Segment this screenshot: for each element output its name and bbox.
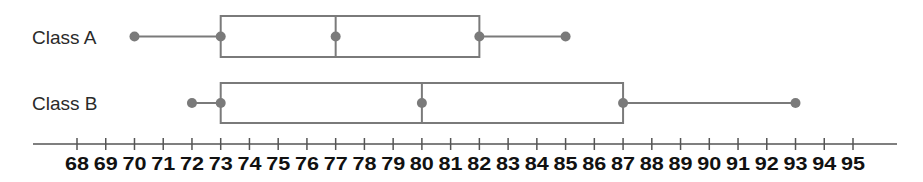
box-plot-row-class-b: Class B: [32, 83, 801, 123]
tick-label: 75: [266, 153, 290, 174]
tick-label: 85: [554, 153, 578, 174]
tick-label: 82: [467, 153, 491, 174]
tick-label: 83: [496, 153, 520, 174]
tick-label: 76: [295, 153, 319, 174]
tick-label: 95: [841, 153, 865, 174]
min-point: [129, 32, 139, 42]
tick-label: 78: [352, 153, 376, 174]
median-point: [417, 98, 427, 108]
box-plot-chart: Class AClass B 6869707172737475767778798…: [0, 0, 923, 182]
q3-point: [618, 98, 628, 108]
tick-label: 93: [784, 153, 808, 174]
tick-label: 91: [726, 153, 750, 174]
tick-label: 71: [151, 153, 175, 174]
q1-point: [216, 32, 226, 42]
tick-label: 84: [525, 153, 549, 174]
tick-label: 77: [324, 153, 348, 174]
tick-label: 86: [582, 153, 606, 174]
x-axis: 6869707172737475767778798081828384858687…: [33, 138, 897, 174]
q3-point: [474, 32, 484, 42]
tick-label: 74: [237, 153, 261, 174]
min-point: [187, 98, 197, 108]
box-plot-row-class-a: Class A: [32, 16, 571, 57]
max-point: [791, 98, 801, 108]
tick-label: 88: [640, 153, 664, 174]
max-point: [561, 32, 571, 42]
iqr-box: [221, 16, 480, 57]
row-label: Class A: [32, 27, 97, 48]
tick-label: 92: [755, 153, 779, 174]
tick-label: 90: [697, 153, 721, 174]
tick-label: 81: [439, 153, 463, 174]
tick-label: 69: [94, 153, 118, 174]
tick-label: 87: [611, 153, 635, 174]
tick-label: 94: [812, 153, 836, 174]
median-point: [331, 32, 341, 42]
tick-label: 80: [410, 153, 434, 174]
q1-point: [216, 98, 226, 108]
box-plot-rows: Class AClass B: [32, 16, 801, 123]
row-label: Class B: [32, 93, 97, 114]
tick-label: 68: [65, 153, 89, 174]
tick-label: 70: [122, 153, 146, 174]
tick-label: 79: [381, 153, 405, 174]
tick-label: 72: [180, 153, 204, 174]
tick-label: 89: [669, 153, 693, 174]
tick-label: 73: [209, 153, 233, 174]
